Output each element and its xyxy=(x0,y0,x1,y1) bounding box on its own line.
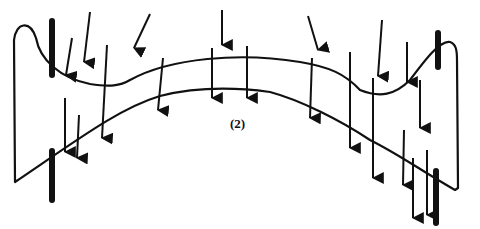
band-outline xyxy=(14,25,458,190)
diagram-label: (2) xyxy=(230,116,245,132)
arch-diagram xyxy=(0,0,480,229)
diagram-canvas: (2) xyxy=(0,0,480,229)
